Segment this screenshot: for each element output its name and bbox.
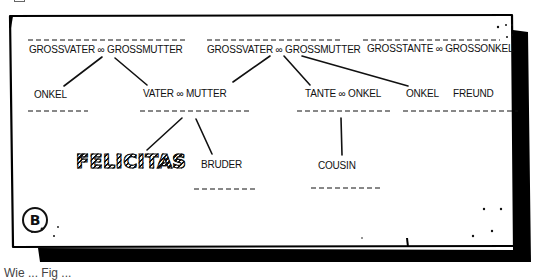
node-uncle-2: ONKEL bbox=[406, 88, 439, 99]
node-aunt-uncle: TANTE ∞ ONKEL bbox=[305, 88, 381, 99]
node-father-mother: VATER ∞ MUTTER bbox=[143, 88, 226, 99]
node-friend: FREUND bbox=[453, 88, 493, 99]
node-grandparents-2: GROSSVATER ∞ GROSSMUTTER bbox=[207, 44, 361, 55]
node-grandparents-1: GROSSVATER ∞ GROSSMUTTER bbox=[29, 44, 183, 55]
node-uncle-1: ONKEL bbox=[34, 89, 67, 100]
node-cousin: COUSIN bbox=[318, 160, 356, 171]
figure-caption: Wie ... Fig ... bbox=[4, 266, 71, 280]
node-felicitas-highlighted: FELICITAS bbox=[76, 150, 187, 172]
node-great-aunt-uncle: GROSSTANTE ∞ GROSSONKEL bbox=[367, 43, 513, 54]
node-brother: BRUDER bbox=[201, 159, 242, 170]
panel-label-badge: B bbox=[22, 207, 48, 233]
